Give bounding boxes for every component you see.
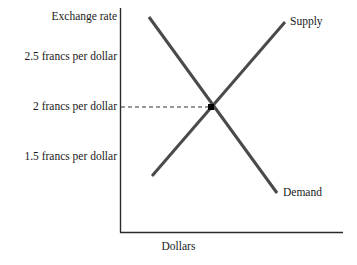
supply-curve xyxy=(152,22,285,176)
supply-demand-chart: Exchange rate 2.5 francs per dollar 2 fr… xyxy=(0,0,357,265)
chart-plot-area xyxy=(0,0,357,265)
demand-curve-label: Demand xyxy=(283,186,322,199)
supply-curve-label: Supply xyxy=(290,15,323,28)
equilibrium-point-marker xyxy=(208,104,214,110)
y-axis-title: Exchange rate xyxy=(52,10,117,23)
x-axis-title: Dollars xyxy=(0,240,357,253)
y-tick-label-2point5: 2.5 francs per dollar xyxy=(24,50,117,63)
y-tick-label-1point5: 1.5 francs per dollar xyxy=(24,150,117,163)
y-tick-label-2: 2 francs per dollar xyxy=(33,100,117,113)
